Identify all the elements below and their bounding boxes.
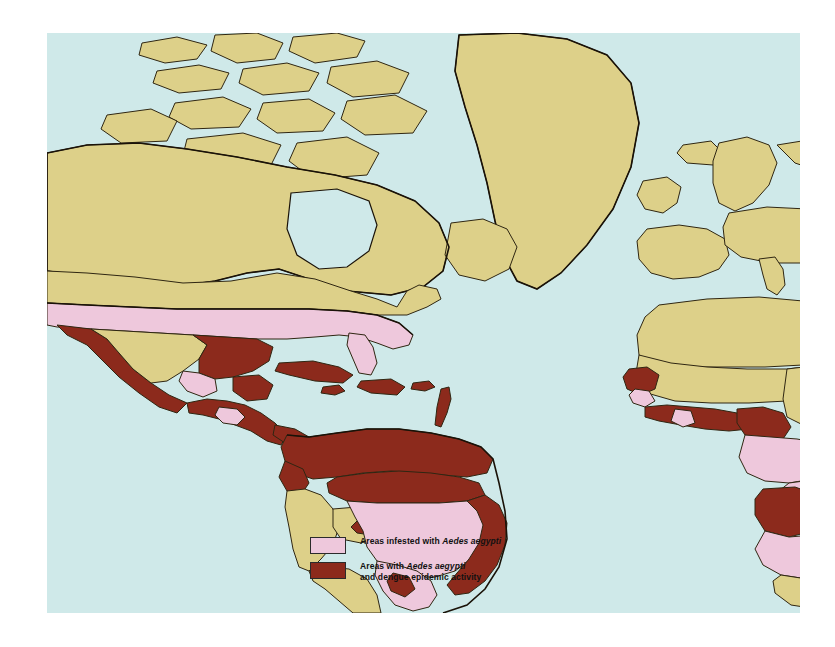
region-north-africa — [637, 297, 800, 367]
legend-label-infested: Areas infested with Aedes aegypti — [360, 536, 501, 547]
world-map-figure: .ld{fill:#ddd089;stroke:#2f2612;stroke-w… — [47, 33, 800, 613]
legend-label-epidemic: Areas with Aedes aegyptiand dengue epide… — [360, 561, 481, 583]
map-legend: Areas infested with Aedes aegypti Areas … — [310, 536, 570, 590]
region-iberia-france — [637, 225, 729, 279]
world-map-svg: .ld{fill:#ddd089;stroke:#2f2612;stroke-w… — [47, 33, 800, 613]
legend-item-infested: Areas infested with Aedes aegypti — [310, 536, 570, 554]
pink-swatch — [310, 537, 346, 554]
page-root: .ld{fill:#ddd089;stroke:#2f2612;stroke-w… — [0, 0, 835, 647]
red-swatch — [310, 562, 346, 579]
legend-item-epidemic: Areas with Aedes aegyptiand dengue epide… — [310, 561, 570, 583]
